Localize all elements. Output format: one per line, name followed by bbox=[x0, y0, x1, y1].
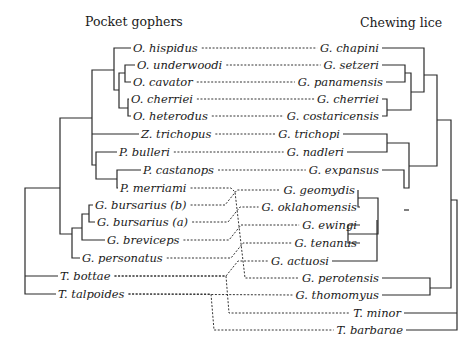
louse-label-g-tenanus: G. tenanus bbox=[295, 236, 358, 250]
louse-label-g-panamensis: G. panamensis bbox=[298, 75, 383, 89]
gopher-branch-personatus bbox=[72, 228, 82, 258]
louse-branch-setzeri-panamensis bbox=[382, 65, 405, 82]
link-g-bursarius-a-to-g-oklahomensis bbox=[192, 207, 258, 222]
gopher-label-g-personatus: G. personatus bbox=[82, 251, 163, 265]
louse-branch-ingroup bbox=[430, 120, 451, 288]
gopher-label-o-hispidus: O. hispidus bbox=[133, 41, 198, 55]
louse-label-g-expansus: G. expansus bbox=[309, 163, 379, 177]
louse-label-g-oklahomensis: G. oklahomensis bbox=[262, 200, 358, 214]
louse-label-g-setzeri: G. setzeri bbox=[324, 58, 380, 72]
louse-branch-geomydoecus-mex bbox=[387, 73, 411, 110]
gopher-branch-geomyinae bbox=[60, 118, 92, 234]
tanglegram: Pocket gophers Chewing lice O. hispidusO… bbox=[0, 0, 475, 350]
louse-label-t-minor: T. minor bbox=[353, 306, 402, 320]
lice-header: Chewing lice bbox=[360, 15, 442, 30]
louse-label-g-costaricensis: G. costaricensis bbox=[287, 109, 379, 123]
gopher-label-p-castanops: P. castanops bbox=[142, 163, 214, 177]
gopher-branch-bulleri bbox=[96, 152, 117, 179]
gopher-branch-o-inner bbox=[119, 73, 128, 108]
louse-label-g-thomomyus: G. thomomyus bbox=[295, 288, 379, 302]
gopher-label-t-bottae: T. bottae bbox=[60, 269, 111, 283]
gopher-label-p-bulleri: P. bulleri bbox=[118, 145, 170, 159]
gopher-label-g-bursarius-a: G. bursarius (a) bbox=[97, 215, 188, 229]
gopher-label-o-underwoodi: O. underwoodi bbox=[137, 58, 223, 72]
gopher-label-g-bursarius-b: G. bursarius (b) bbox=[95, 198, 187, 212]
gopher-label-z-trichopus: Z. trichopus bbox=[140, 127, 211, 141]
louse-branch-trichopi-nadleri bbox=[343, 134, 387, 152]
louse-branch-perotensis-thomomyus bbox=[382, 278, 430, 295]
louse-labels: G. chapiniG. setzeriG. panamensisG. cher… bbox=[262, 41, 404, 337]
gopher-label-o-cherriei: O. cherriei bbox=[131, 92, 193, 106]
louse-branch-cherriei-costaricensis bbox=[382, 99, 387, 116]
link-g-breviceps-to-g-ewingi bbox=[183, 225, 299, 240]
louse-branch-root bbox=[406, 200, 457, 330]
louse-branch-expansus bbox=[382, 143, 409, 188]
gopher-branch-root bbox=[25, 188, 60, 294]
louse-label-g-ewingi: G. ewingi bbox=[302, 218, 357, 232]
louse-label-g-chapini: G. chapini bbox=[320, 41, 379, 55]
louse-branch-geomydoecus bbox=[409, 75, 437, 166]
gopher-branch-hispidus bbox=[114, 48, 131, 90]
louse-branch-chapini bbox=[382, 48, 424, 92]
gopher-branch-ozp bbox=[92, 70, 114, 165]
louse-label-g-nadleri: G. nadleri bbox=[287, 145, 345, 159]
gopher-labels: O. hispidusO. underwoodiO. cavatorO. che… bbox=[58, 41, 223, 301]
gopher-label-g-breviceps: G. breviceps bbox=[107, 233, 180, 247]
gopher-label-p-merriami: P. merriami bbox=[119, 181, 187, 195]
louse-label-g-trichopi: G. trichopi bbox=[278, 127, 340, 141]
louse-label-g-perotensis: G. perotensis bbox=[302, 271, 379, 285]
louse-label-g-cherriei: G. cherriei bbox=[317, 92, 379, 106]
gophers-header: Pocket gophers bbox=[85, 14, 183, 29]
louse-label-t-barbarae: T. barbarae bbox=[337, 323, 404, 337]
link-t-talpoides-to-g-thomomyus bbox=[128, 294, 292, 295]
gopher-label-t-talpoides: T. talpoides bbox=[58, 287, 125, 301]
louse-label-g-geomydis: G. geomydis bbox=[283, 183, 355, 197]
gopher-label-o-heterodus: O. heterodus bbox=[133, 109, 208, 123]
louse-label-g-actuosi: G. actuosi bbox=[271, 254, 329, 268]
gopher-label-o-cavator: O. cavator bbox=[133, 75, 194, 89]
